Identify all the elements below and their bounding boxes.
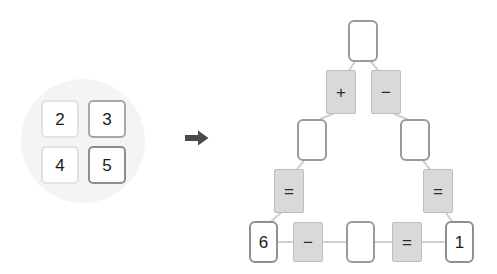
empty-slot-node[interactable] xyxy=(297,119,327,161)
tile-grid: 2345 xyxy=(41,100,126,184)
tree-edge xyxy=(349,62,355,70)
tree-edge xyxy=(423,161,430,169)
number-node-6: 6 xyxy=(249,221,278,263)
number-node-1: 1 xyxy=(445,221,474,263)
operator-node-equals: = xyxy=(423,169,453,213)
operator-node-equals: = xyxy=(392,222,422,262)
right-arrow-glyph xyxy=(184,128,210,148)
tree-edge xyxy=(446,213,451,221)
tree-edge xyxy=(271,213,280,221)
operator-node-plus: + xyxy=(326,70,356,114)
empty-slot-node[interactable] xyxy=(346,221,375,263)
number-tile-2[interactable]: 2 xyxy=(41,100,79,138)
empty-slot-node[interactable] xyxy=(348,20,378,62)
tree-edge xyxy=(297,161,304,169)
expression-tree: +−==6−=1 xyxy=(240,0,497,274)
operator-node-equals: = xyxy=(274,169,304,213)
tile-tray: 2345 xyxy=(0,0,180,274)
empty-slot-node[interactable] xyxy=(400,119,430,161)
right-arrow-icon xyxy=(184,128,210,148)
number-tile-4[interactable]: 4 xyxy=(41,146,79,184)
number-tile-5[interactable]: 5 xyxy=(88,146,126,184)
operator-node-minus: − xyxy=(371,70,401,114)
number-tile-3[interactable]: 3 xyxy=(88,100,126,138)
tree-edge xyxy=(371,62,378,70)
operator-node-minus: − xyxy=(293,222,323,262)
puzzle-canvas: 2345 +−==6−=1 xyxy=(0,0,497,274)
